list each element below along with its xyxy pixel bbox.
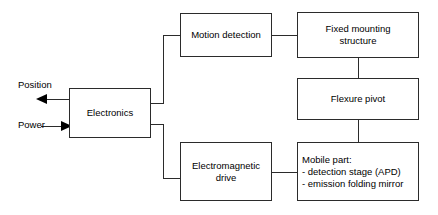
block-mobile-part-line-3: - emission folding mirror — [302, 178, 418, 190]
block-flexure-pivot-line-1: Flexure pivot — [298, 93, 418, 105]
block-flexure-pivot-lines: Flexure pivot — [298, 93, 418, 105]
block-electronics-lines: Electronics — [70, 107, 150, 119]
block-mobile-part-lines: Mobile part: - detection stage (APD) - e… — [302, 154, 418, 190]
block-motion-detection-lines: Motion detection — [181, 29, 271, 41]
block-electromagnetic-drive-line-2: drive — [181, 172, 271, 184]
block-electronics-line-1: Electronics — [70, 107, 150, 119]
io-label-power: Power — [18, 119, 45, 130]
block-motion-detection-line-1: Motion detection — [181, 29, 271, 41]
position-arrowhead — [36, 94, 47, 104]
wire-electronics-to-em-drive — [151, 124, 180, 178]
block-motion-detection[interactable]: Motion detection — [180, 13, 272, 57]
io-label-position: Position — [18, 79, 52, 90]
block-electromagnetic-drive-line-1: Electromagnetic — [181, 160, 271, 172]
block-mobile-part-line-1: Mobile part: — [302, 154, 418, 166]
block-electromagnetic-drive[interactable]: Electromagnetic drive — [180, 142, 272, 201]
block-mobile-part-line-2: - detection stage (APD) — [302, 166, 418, 178]
block-diagram-canvas: Electronics Motion detection Fixed mount… — [0, 0, 438, 215]
block-mobile-part[interactable]: Mobile part: - detection stage (APD) - e… — [297, 142, 419, 201]
block-electronics[interactable]: Electronics — [69, 88, 151, 138]
block-flexure-pivot[interactable]: Flexure pivot — [297, 78, 419, 120]
block-fixed-mounting-structure-line-1: Fixed mounting — [298, 23, 418, 35]
block-electromagnetic-drive-lines: Electromagnetic drive — [181, 160, 271, 184]
wire-electronics-to-motion-detection — [151, 35, 180, 103]
block-fixed-mounting-structure[interactable]: Fixed mounting structure — [297, 12, 419, 58]
block-fixed-mounting-structure-line-2: structure — [298, 35, 418, 47]
block-fixed-mounting-structure-lines: Fixed mounting structure — [298, 23, 418, 47]
